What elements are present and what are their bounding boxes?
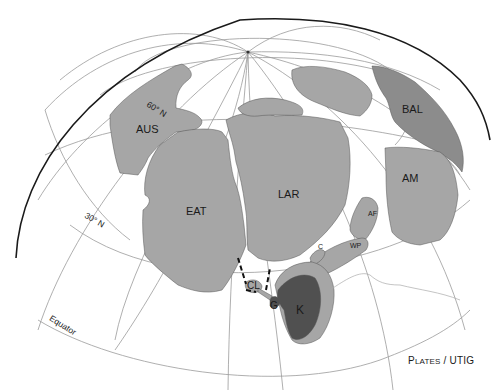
- credit-plates-utig: PLATES / UTIG: [408, 355, 474, 366]
- arctic-islands: [238, 98, 303, 116]
- label-eat: EAT: [186, 205, 207, 217]
- label-cl: CL: [247, 280, 260, 291]
- label-c: C: [318, 243, 323, 250]
- plate-af: [350, 197, 378, 240]
- label-am: AM: [402, 172, 419, 184]
- label-wp: WP: [350, 242, 361, 249]
- label-bal: BAL: [402, 103, 423, 115]
- greenland: [292, 66, 372, 116]
- label-af: AF: [368, 210, 377, 217]
- credit-p: P: [408, 355, 415, 366]
- label-g: G: [270, 300, 278, 311]
- credit-utig: UTIG: [450, 355, 475, 366]
- cl-link: [258, 288, 272, 300]
- credit-sep: /: [441, 355, 450, 366]
- modern-coastline: [330, 274, 460, 300]
- plate-am: [385, 147, 458, 245]
- label-k: K: [296, 303, 304, 317]
- credit-lates: LATES: [415, 357, 441, 366]
- label-aus: AUS: [136, 123, 159, 135]
- pole-point: [246, 50, 249, 53]
- label-lar: LAR: [278, 188, 299, 200]
